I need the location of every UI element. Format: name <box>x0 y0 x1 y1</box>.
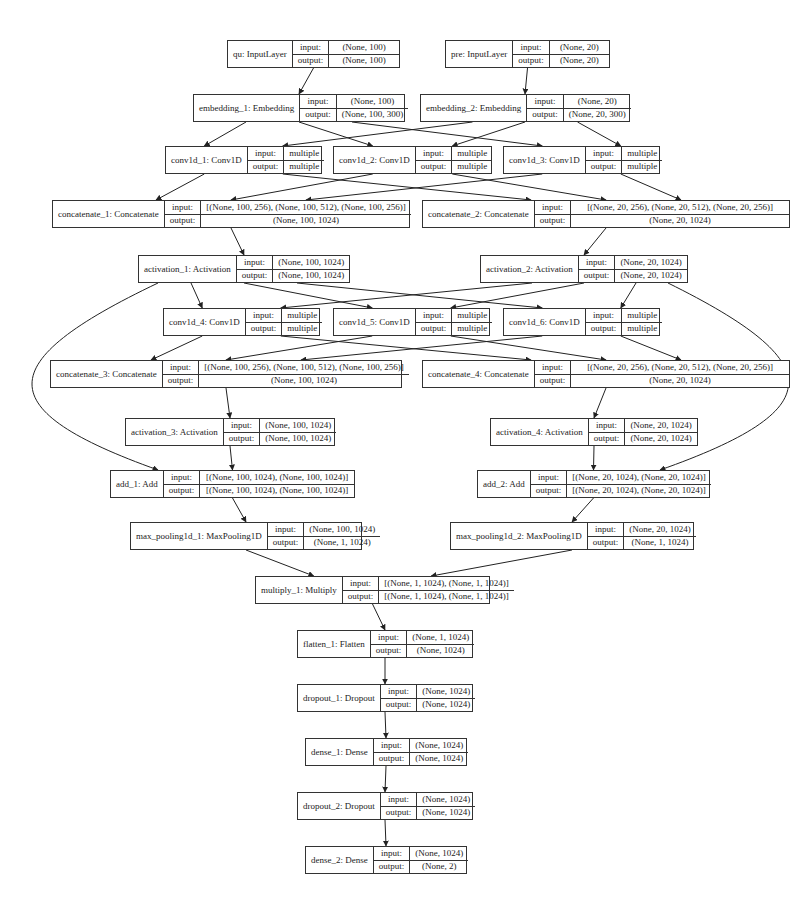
io-values: multiple multiple <box>284 147 324 173</box>
input-label: input: <box>589 419 625 433</box>
output-label: output: <box>535 375 571 388</box>
edge-dropout-1-to-dense-1 <box>385 712 386 738</box>
io-labels: input: output: <box>237 256 274 282</box>
layer-node-conv1d-3[interactable]: conv1d_3: Conv1D input: output: multiple… <box>503 146 660 174</box>
edge-embedding-2-to-conv1d-2 <box>452 122 525 146</box>
io-values: [(None, 1, 1024), (None, 1, 1024)] [(Non… <box>379 577 513 603</box>
io-labels: input: output: <box>343 577 380 603</box>
input-shape: multiple <box>452 147 492 161</box>
input-label: input: <box>163 361 199 375</box>
layer-node-dropout-1[interactable]: dropout_1: Dropout input: output: (None,… <box>297 684 473 712</box>
layer-node-activation-2[interactable]: activation_2: Activation input: output: … <box>480 255 688 283</box>
layer-node-max-pooling1d-1[interactable]: max_pooling1d_1: MaxPooling1D input: out… <box>130 522 362 550</box>
layer-name: flatten_1: Flatten <box>298 631 371 657</box>
output-shape: (None, 1024) <box>407 645 474 658</box>
output-shape: (None, 1024) <box>410 753 468 766</box>
layer-node-max-pooling1d-2[interactable]: max_pooling1d_2: MaxPooling1D input: out… <box>450 522 694 550</box>
output-label: output: <box>224 433 260 446</box>
output-shape: (None, 100, 1024) <box>201 215 410 228</box>
layer-name: dense_1: Dense <box>306 739 374 765</box>
input-shape: [(None, 100, 1024), (None, 100, 1024)] <box>200 471 354 485</box>
output-label: output: <box>237 270 273 283</box>
layer-name: dropout_2: Dropout <box>298 793 381 819</box>
input-shape: multiple <box>452 309 492 323</box>
layer-node-flatten-1[interactable]: flatten_1: Flatten input: output: (None,… <box>297 630 473 658</box>
layer-node-concatenate-1[interactable]: concatenate_1: Concatenate input: output… <box>52 200 410 228</box>
io-values: (None, 1024) (None, 2) <box>410 847 468 873</box>
input-shape: (None, 1024) <box>417 793 475 807</box>
input-shape: (None, 1024) <box>417 685 475 699</box>
layer-node-conv1d-4[interactable]: conv1d_4: Conv1D input: output: multiple… <box>163 308 320 336</box>
io-values: (None, 20, 1024) (None, 1, 1024) <box>624 523 696 549</box>
layer-node-add-2[interactable]: add_2: Add input: output: [(None, 20, 10… <box>477 470 710 498</box>
input-label: input: <box>343 577 379 591</box>
edge-pre-to-embedding-2 <box>525 68 528 94</box>
edge-embedding-1-to-conv1d-1 <box>204 122 246 146</box>
output-shape: multiple <box>452 161 492 174</box>
edge-max-pooling1d-2-to-multiply-1 <box>431 550 572 576</box>
output-shape: [(None, 1, 1024), (None, 1, 1024)] <box>379 591 513 604</box>
edge-add-1-to-max-pooling1d-1 <box>233 498 247 522</box>
layer-name: add_1: Add <box>111 471 164 497</box>
layer-node-concatenate-3[interactable]: concatenate_3: Concatenate input: output… <box>50 360 402 388</box>
layer-name: max_pooling1d_2: MaxPooling1D <box>451 523 588 549</box>
layer-node-concatenate-2[interactable]: concatenate_2: Concatenate input: output… <box>422 200 790 228</box>
layer-node-conv1d-5[interactable]: conv1d_5: Conv1D input: output: multiple… <box>333 308 490 336</box>
io-values: (None, 1024) (None, 1024) <box>417 793 475 819</box>
layer-node-qu[interactable]: qu: InputLayer input: output: (None, 100… <box>227 40 400 68</box>
edge-conv1d-2-to-concatenate-1 <box>231 174 373 200</box>
output-shape: (None, 20) <box>550 55 609 68</box>
layer-node-embedding-2[interactable]: embedding_2: Embedding input: output: (N… <box>420 94 630 122</box>
layer-node-dropout-2[interactable]: dropout_2: Dropout input: output: (None,… <box>297 792 473 820</box>
layer-node-add-1[interactable]: add_1: Add input: output: [(None, 100, 1… <box>110 470 355 498</box>
io-labels: input: output: <box>224 419 261 445</box>
output-label: output: <box>527 109 563 122</box>
input-shape: (None, 20) <box>564 95 631 109</box>
io-values: (None, 1024) (None, 1024) <box>417 685 475 711</box>
output-shape: multiple <box>622 161 662 174</box>
io-values: multiple multiple <box>282 309 322 335</box>
layer-node-activation-4[interactable]: activation_4: Activation input: output: … <box>490 418 698 446</box>
edge-activation-4-to-add-2 <box>594 446 595 470</box>
edge-embedding-2-to-conv1d-1 <box>283 122 473 146</box>
layer-name: conv1d_6: Conv1D <box>504 309 586 335</box>
input-label: input: <box>416 147 452 161</box>
output-shape: (None, 20, 300) <box>564 109 631 122</box>
output-shape: (None, 100, 1024) <box>260 433 336 446</box>
input-shape: (None, 20, 1024) <box>624 523 696 537</box>
layer-node-dense-2[interactable]: dense_2: Dense input: output: (None, 102… <box>305 846 467 874</box>
input-label: input: <box>586 309 622 323</box>
input-shape: (None, 100, 1024) <box>273 256 349 270</box>
io-values: (None, 100, 1024) (None, 1, 1024) <box>304 523 380 549</box>
io-labels: input: output: <box>531 471 568 497</box>
output-label: output: <box>371 645 407 658</box>
layer-name: conv1d_3: Conv1D <box>504 147 586 173</box>
input-shape: multiple <box>282 309 322 323</box>
input-label: input: <box>381 685 417 699</box>
io-values: (None, 20, 1024) (None, 20, 1024) <box>615 256 687 282</box>
layer-node-activation-1[interactable]: activation_1: Activation input: output: … <box>138 255 350 283</box>
layer-name: multiply_1: Multiply <box>256 577 343 603</box>
edge-concatenate-3-to-activation-3 <box>226 388 230 418</box>
output-label: output: <box>300 109 336 122</box>
layer-node-concatenate-4[interactable]: concatenate_4: Concatenate input: output… <box>422 360 790 388</box>
layer-node-activation-3[interactable]: activation_3: Activation input: output: … <box>125 418 335 446</box>
layer-node-embedding-1[interactable]: embedding_1: Embedding input: output: (N… <box>193 94 405 122</box>
output-shape: multiple <box>622 323 662 336</box>
io-values: (None, 1, 1024) (None, 1024) <box>407 631 474 657</box>
layer-node-conv1d-2[interactable]: conv1d_2: Conv1D input: output: multiple… <box>333 146 492 174</box>
input-label: input: <box>588 523 624 537</box>
layer-node-pre[interactable]: pre: InputLayer input: output: (None, 20… <box>445 40 610 68</box>
input-label: input: <box>531 471 567 485</box>
layer-name: dense_2: Dense <box>306 847 374 873</box>
layer-node-multiply-1[interactable]: multiply_1: Multiply input: output: [(No… <box>255 576 490 604</box>
layer-node-conv1d-6[interactable]: conv1d_6: Conv1D input: output: multiple… <box>503 308 660 336</box>
edge-conv1d-1-to-concatenate-2 <box>283 174 531 200</box>
io-values: [(None, 20, 256), (None, 20, 512), (None… <box>571 201 789 227</box>
layer-node-dense-1[interactable]: dense_1: Dense input: output: (None, 102… <box>305 738 467 766</box>
layer-node-conv1d-1[interactable]: conv1d_1: Conv1D input: output: multiple… <box>165 146 322 174</box>
output-label: output: <box>416 161 452 174</box>
io-labels: input: output: <box>579 256 616 282</box>
io-labels: input: output: <box>300 95 337 121</box>
edge-conv1d-2-to-concatenate-2 <box>452 174 606 200</box>
